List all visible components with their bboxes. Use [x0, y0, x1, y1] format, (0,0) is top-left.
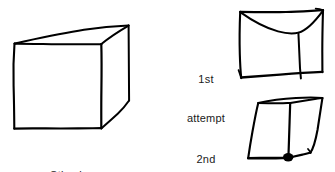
attempt2-caption: 2nd attempt: [178, 127, 234, 172]
stimulus-edge-back-right-vertical: [129, 26, 130, 101]
figure-container: Stimulus 1st attempt 2nd attempt: [0, 0, 335, 172]
attempt1-caption-line1: 1st: [178, 73, 234, 86]
attempt2-caption-line1: 2nd: [178, 153, 234, 166]
attempt1-caption-line2: attempt: [178, 112, 234, 125]
attempt1-edge-right-vertical: [322, 10, 323, 72]
stimulus-edge-front-top: [15, 44, 102, 45]
attempt2-ink-blob: [283, 153, 293, 161]
stimulus-caption-text: Stimulus: [0, 169, 144, 172]
stimulus-caption: Stimulus: [0, 143, 144, 172]
stimulus-edge-front-left: [13, 44, 14, 129]
